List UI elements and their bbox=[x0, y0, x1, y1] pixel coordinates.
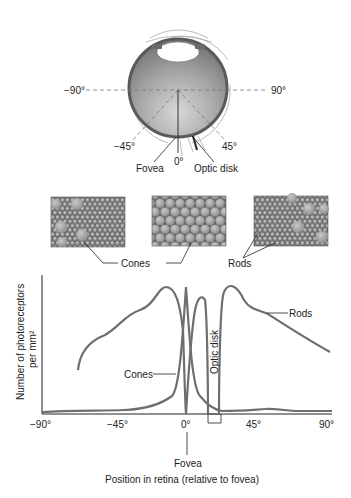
cones-mosaic-label: Cones bbox=[121, 258, 150, 269]
cone-cell bbox=[303, 203, 315, 215]
photoreceptor-diagram: −90° 90° −45° 45° 0° Fovea Optic disk Co… bbox=[0, 0, 351, 498]
cone-cell bbox=[71, 198, 83, 210]
fovea-leader bbox=[154, 137, 176, 162]
x-tick-45: 45° bbox=[246, 419, 261, 430]
lens bbox=[157, 42, 199, 62]
rods-curve bbox=[78, 286, 330, 414]
optic-disk-chart-label: Optic disk bbox=[209, 329, 220, 374]
x-tick-90: 90° bbox=[319, 419, 334, 430]
rods-mosaic-label: Rods bbox=[228, 258, 251, 269]
cone-cell bbox=[76, 229, 88, 241]
x-axis-label: Position in retina (relative to fovea) bbox=[105, 474, 259, 485]
label-zero: 0° bbox=[174, 156, 184, 167]
y-axis-label-line1: Number of photoreceptors bbox=[15, 284, 26, 400]
iris-left bbox=[152, 44, 162, 49]
fovea-chart-label: Fovea bbox=[174, 458, 202, 469]
mosaic-right bbox=[254, 193, 329, 246]
x-tick-neg45: −45° bbox=[107, 419, 128, 430]
label-optic-disk: Optic disk bbox=[194, 163, 239, 174]
mosaic-fovea bbox=[152, 196, 226, 246]
cones-chart-label: Cones bbox=[124, 369, 153, 380]
rods-chart-label: Rods bbox=[289, 308, 312, 319]
cone-cell bbox=[55, 221, 67, 233]
cone-cell bbox=[292, 221, 304, 233]
cone-cell bbox=[51, 199, 61, 209]
iris-right bbox=[195, 44, 205, 49]
label-pos90: 90° bbox=[271, 85, 286, 96]
optic-disk-leader bbox=[192, 136, 214, 162]
label-fovea: Fovea bbox=[136, 163, 164, 174]
label-neg90: −90° bbox=[64, 85, 85, 96]
cone-cell bbox=[316, 231, 328, 243]
chart: Number of photoreceptors per mm² Optic d… bbox=[15, 275, 334, 485]
cone-cell bbox=[319, 204, 329, 214]
x-tick-neg90: −90° bbox=[30, 419, 51, 430]
eye-cross-section bbox=[129, 30, 230, 156]
label-pos45: 45° bbox=[222, 141, 237, 152]
y-axis-label-line2: per mm² bbox=[27, 330, 38, 368]
x-tick-0: 0° bbox=[181, 419, 191, 430]
cone-cell bbox=[287, 193, 297, 203]
mosaic-left bbox=[51, 197, 125, 247]
label-neg45: −45° bbox=[114, 141, 135, 152]
cone-cell bbox=[57, 237, 67, 247]
optic-disk-bracket bbox=[208, 414, 221, 423]
